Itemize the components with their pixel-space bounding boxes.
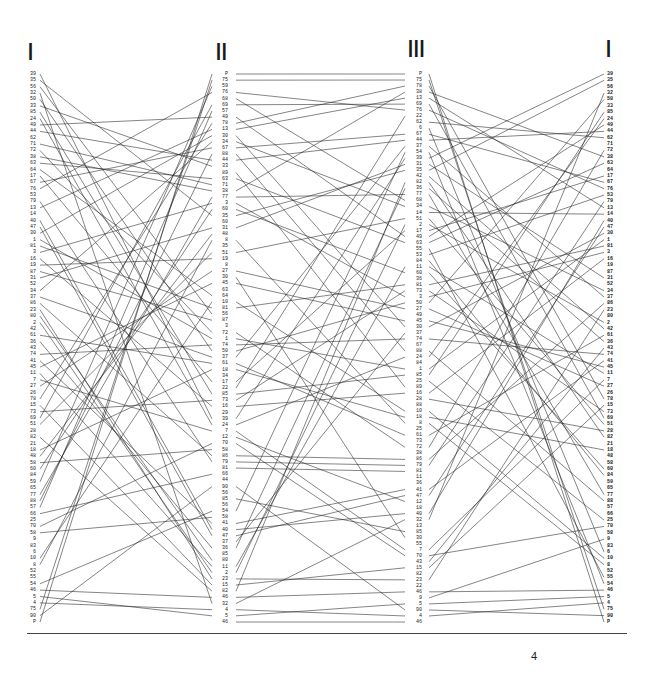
- node-label: 13: [607, 205, 623, 211]
- node-label: 11: [214, 564, 228, 570]
- node-label: 58: [214, 447, 228, 453]
- connection-line: [429, 526, 604, 555]
- node-label: 64: [20, 167, 36, 173]
- connection-line: [429, 249, 604, 578]
- node-label: 3: [214, 323, 228, 329]
- connection-line: [40, 80, 212, 609]
- connection-line: [40, 228, 212, 278]
- connection-line: [40, 99, 212, 351]
- node-label: 38: [214, 188, 228, 194]
- node-label: 67: [20, 179, 36, 185]
- node-label: 35: [214, 243, 228, 249]
- connection-line: [40, 92, 212, 188]
- node-label: 31: [214, 225, 228, 231]
- node-label: 12: [214, 434, 228, 440]
- node-label: 5: [214, 613, 228, 619]
- node-label: 58: [607, 530, 623, 536]
- connection-line: [236, 182, 405, 591]
- node-label: 56: [214, 490, 228, 496]
- node-label: 78: [607, 396, 623, 402]
- node-label: 28: [607, 428, 623, 434]
- connection-line: [40, 106, 212, 166]
- node-label: 60: [214, 206, 228, 212]
- node-label: 3: [607, 249, 623, 255]
- connection-line: [40, 129, 212, 207]
- connection-line: [236, 136, 405, 327]
- connection-line: [429, 590, 604, 592]
- node-label: 30: [214, 133, 228, 139]
- node-label: 71: [607, 141, 623, 147]
- connection-line: [429, 321, 604, 367]
- node-label: 10: [20, 555, 36, 561]
- node-label: 85: [214, 551, 228, 557]
- node-label: 30: [607, 230, 623, 236]
- connection-line: [429, 411, 604, 558]
- connection-line: [40, 74, 212, 419]
- node-label: 23: [20, 307, 36, 313]
- node-label: 51: [20, 421, 36, 427]
- node-label: 86: [607, 300, 623, 306]
- node-label: 79: [20, 198, 36, 204]
- node-label: 65: [20, 485, 36, 491]
- node-label: 17: [607, 173, 623, 179]
- node-label: 74: [20, 351, 36, 357]
- node-label: 64: [214, 293, 228, 299]
- node-label: 61: [214, 360, 228, 366]
- connection-line: [429, 261, 604, 476]
- node-label: 63: [607, 160, 623, 166]
- node-label: 58: [214, 514, 228, 520]
- node-label: 71: [214, 182, 228, 188]
- node-label: 47: [20, 224, 36, 230]
- node-label: 86: [214, 453, 228, 459]
- node-label: 74: [607, 351, 623, 357]
- connection-line: [40, 221, 212, 530]
- connection-lines: [0, 0, 647, 676]
- node-label: 78: [214, 120, 228, 126]
- connection-line: [236, 579, 405, 580]
- node-label: 19: [607, 262, 623, 268]
- node-label: 52: [607, 281, 623, 287]
- connection-line: [236, 303, 405, 351]
- node-label: 63: [214, 287, 228, 293]
- connection-line: [236, 92, 405, 110]
- node-label: 44: [607, 128, 623, 134]
- connection-line: [236, 468, 405, 471]
- node-label: 36: [20, 339, 36, 345]
- node-label: 58: [607, 460, 623, 466]
- node-label: 81: [214, 465, 228, 471]
- node-label: 37: [20, 294, 36, 300]
- connection-line: [429, 221, 604, 514]
- node-label: 90: [214, 484, 228, 490]
- connection-line: [40, 405, 212, 585]
- node-label: 66: [214, 471, 228, 477]
- connection-line: [40, 511, 212, 584]
- node-label: 52: [607, 568, 623, 574]
- node-label: 27: [20, 383, 36, 389]
- connection-line: [40, 259, 212, 407]
- node-label: P: [20, 619, 36, 625]
- node-label: 39: [214, 416, 228, 422]
- connection-line: [236, 173, 405, 388]
- node-label: 16: [214, 403, 228, 409]
- node-label: 58: [20, 530, 36, 536]
- connection-line: [40, 361, 212, 524]
- connection-line: [236, 302, 405, 411]
- node-label: 5: [607, 594, 623, 600]
- node-label: 56: [214, 311, 228, 317]
- node-label: 33: [214, 163, 228, 169]
- node-label: 15: [214, 582, 228, 588]
- node-label: 39: [607, 71, 623, 77]
- node-label: 15: [20, 402, 36, 408]
- connection-line: [40, 112, 212, 394]
- node-label: 7: [607, 377, 623, 383]
- connection-line: [236, 231, 405, 382]
- node-label: 72: [20, 147, 36, 153]
- node-label: 48: [20, 453, 36, 459]
- node-label: 81: [607, 243, 623, 249]
- node-label: 77: [607, 492, 623, 498]
- connection-line: [236, 203, 405, 297]
- node-label: 69: [607, 415, 623, 421]
- node-label: 45: [607, 364, 623, 370]
- connection-line: [429, 163, 604, 242]
- node-label: 57: [607, 504, 623, 510]
